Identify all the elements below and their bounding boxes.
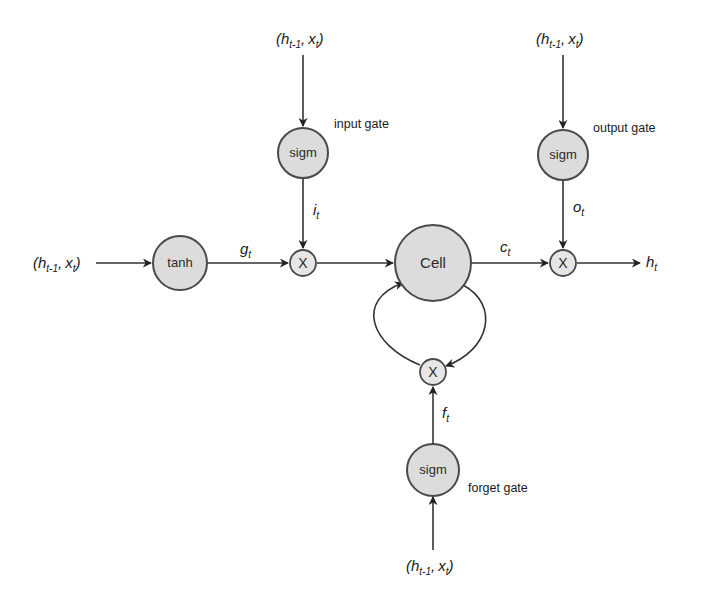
edge-label-g: gt [240, 240, 252, 260]
input-mult-node: X [290, 250, 316, 276]
output-gate-label: output gate [593, 121, 656, 135]
svg-text:(ht-1,xt): (ht-1,xt) [536, 30, 583, 50]
edge-cell-to-forget-mult [446, 285, 486, 366]
edge-label-o: ot [573, 198, 585, 218]
svg-text:(ht-1,xt): (ht-1,xt) [406, 557, 453, 577]
edge-label-f: ft [442, 404, 450, 424]
edge-label-i: it [313, 201, 320, 221]
tanh-label: tanh [167, 255, 192, 270]
output-mult-label: X [558, 255, 568, 271]
input-mult-label: X [298, 255, 308, 271]
edge-label-c: ct [500, 238, 512, 258]
output-sigm-label: sigm [549, 147, 576, 162]
input-tuple-bottom-forget-gate: (ht-1,xt) [406, 557, 453, 577]
output-sigm-node: sigm [538, 130, 588, 180]
forget-sigm-label: sigm [419, 462, 446, 477]
lstm-diagram: tanh sigm X Cell X sigm X sigm input gat… [0, 0, 703, 603]
input-gate-label: input gate [334, 117, 389, 131]
forget-gate-label: forget gate [468, 481, 528, 495]
output-mult-node: X [550, 250, 576, 276]
input-tuple-top-output-gate: (ht-1,xt) [536, 30, 583, 50]
cell-node: Cell [395, 225, 471, 301]
input-tuple-top-input-gate: (ht-1,xt) [276, 30, 323, 50]
input-tuple-left: (ht-1,xt) [33, 254, 80, 274]
forget-mult-label: X [428, 364, 438, 380]
cell-label: Cell [420, 254, 446, 271]
edge-label-h-out: ht [646, 253, 658, 273]
input-sigm-node: sigm [278, 128, 328, 178]
tanh-node: tanh [153, 236, 207, 290]
input-sigm-label: sigm [289, 145, 316, 160]
svg-text:(ht-1,xt): (ht-1,xt) [33, 254, 80, 274]
forget-mult-node: X [420, 359, 446, 385]
svg-text:(ht-1,xt): (ht-1,xt) [276, 30, 323, 50]
forget-sigm-node: sigm [407, 444, 459, 496]
